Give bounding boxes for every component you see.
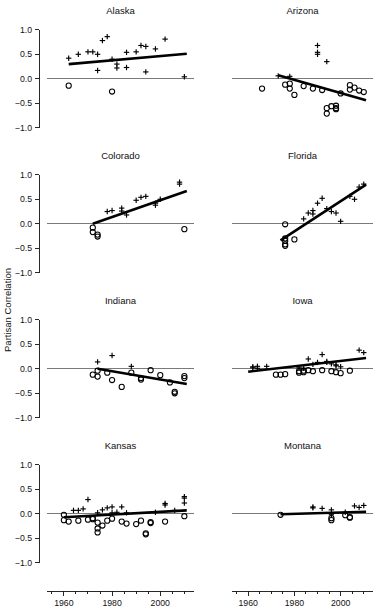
y-tick-label: 0.0: [20, 364, 32, 374]
y-tick-label: 0.5: [20, 484, 32, 494]
partisan-correlation-figure: Alaska1.00.50.0−0.5−1.0ArizonaColorado1.…: [0, 0, 380, 615]
panel-title-montana: Montana: [284, 440, 322, 451]
x-tick-label: 1980: [102, 598, 121, 608]
y-tick-label: 0.0: [20, 74, 32, 84]
x-tick-label: 1960: [54, 598, 73, 608]
panel-title-arizona: Arizona: [286, 5, 319, 16]
x-tick-label: 2000: [151, 598, 170, 608]
figure-root: Alaska1.00.50.0−0.5−1.0ArizonaColorado1.…: [0, 0, 380, 615]
y-tick-label: −1.0: [15, 268, 32, 278]
y-tick-label: −1.0: [15, 558, 32, 568]
y-tick-label: 1.0: [20, 25, 32, 35]
y-tick-label: −0.5: [15, 533, 32, 543]
x-tick-label: 1960: [239, 598, 258, 608]
x-tick-label: 2000: [331, 598, 350, 608]
y-tick-label: 1.0: [20, 315, 32, 325]
panel-title-iowa: Iowa: [292, 295, 313, 306]
panel-title-indiana: Indiana: [105, 295, 137, 306]
y-tick-label: 0.5: [20, 339, 32, 349]
y-tick-label: 1.0: [20, 170, 32, 180]
y-tick-label: 0.5: [20, 194, 32, 204]
y-tick-label: 0.5: [20, 49, 32, 59]
y-tick-label: −1.0: [15, 123, 32, 133]
x-tick-label: 1980: [285, 598, 304, 608]
y-tick-label: −1.0: [15, 413, 32, 423]
panel-title-colorado: Colorado: [101, 150, 140, 161]
y-axis-title: Partisan Correlation: [2, 268, 13, 352]
y-tick-label: −0.5: [15, 243, 32, 253]
panel-title-florida: Florida: [288, 150, 318, 161]
y-tick-label: −0.5: [15, 98, 32, 108]
y-tick-label: 0.0: [20, 219, 32, 229]
panel-title-alaska: Alaska: [106, 5, 135, 16]
y-tick-label: −0.5: [15, 388, 32, 398]
panel-title-kansas: Kansas: [105, 440, 137, 451]
y-tick-label: 1.0: [20, 460, 32, 470]
y-tick-label: 0.0: [20, 509, 32, 519]
